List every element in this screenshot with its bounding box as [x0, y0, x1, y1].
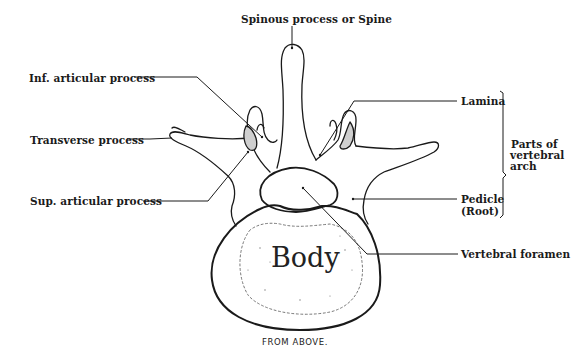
label-pedicle: Pedicle [461, 193, 504, 205]
label-vertebral-foramen: Vertebral foramen [461, 248, 570, 260]
spinous-process-outline [277, 44, 316, 168]
vertebra-diagram: Body Spinous process or Spine Inf. artic… [0, 0, 586, 357]
label-spinous-process: Spinous process or Spine [241, 13, 392, 25]
right-facet-shading [340, 122, 354, 149]
left-facet-shading [244, 126, 257, 150]
label-arch-group-line3: arch [510, 160, 537, 172]
view-caption: FROM ABOVE. [262, 336, 328, 348]
label-inf-articular-process: Inf. articular process [29, 72, 155, 84]
left-transverse-process-outline [170, 132, 250, 226]
label-pedicle-root: (Root) [461, 205, 499, 217]
label-transverse-process: Transverse process [30, 134, 144, 146]
label-lamina: Lamina [461, 95, 505, 107]
right-transverse-process-outline [356, 142, 439, 224]
leader-inf-articular [134, 77, 262, 137]
vertebra-illustration [0, 0, 586, 357]
body-label: Body [271, 242, 340, 273]
leader-sup-articular [143, 152, 248, 201]
label-sup-articular-process: Sup. articular process [30, 195, 162, 207]
